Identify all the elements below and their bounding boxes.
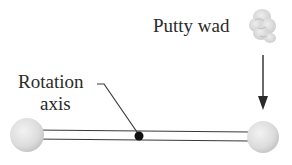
pivot-dot bbox=[135, 132, 144, 141]
diagram-canvas: Rotation axis Putty wad bbox=[0, 0, 292, 165]
putty-wad-icon bbox=[249, 9, 276, 43]
rotation-axis-label-line2: axis bbox=[40, 94, 71, 114]
right-ball bbox=[247, 121, 279, 153]
putty-wad-label: Putty wad bbox=[153, 16, 230, 36]
rotation-axis-label-line1: Rotation bbox=[18, 72, 83, 92]
rotation-axis-leader-line bbox=[97, 84, 137, 132]
left-ball bbox=[10, 118, 44, 152]
down-arrow-icon bbox=[258, 55, 268, 110]
